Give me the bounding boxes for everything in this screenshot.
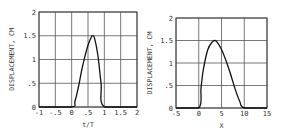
x-tick-label: -.5: [49, 109, 62, 117]
x-tick-label: .5: [84, 109, 92, 117]
y-tick-label: 1.5: [160, 37, 173, 45]
y-tick-label: .5: [165, 82, 173, 90]
y-tick-label: 1.5: [23, 32, 36, 40]
y-tick-label: 0: [32, 104, 36, 112]
y-tick-label: 2: [32, 9, 36, 17]
y-axis-label: DISPLACEMENT, CM: [8, 28, 16, 91]
x-tick-label: 1: [102, 109, 106, 117]
y-tick-label: 1: [32, 56, 36, 64]
y-tick-label: 2: [169, 15, 173, 23]
x-tick-label: 1.5: [114, 109, 127, 117]
chart-canvas: -1-.50.511.520.511.52t/TDISPLACEMENT, CM…: [0, 0, 281, 135]
x-tick-label: 15: [263, 110, 271, 118]
x-axis-label: t/T: [82, 121, 94, 129]
x-tick-label: 0: [197, 110, 201, 118]
y-tick-label: .5: [28, 80, 36, 88]
x-axis-label: X: [220, 122, 224, 130]
y-axis-label: DISPLACEMENT, CM: [146, 32, 154, 95]
x-tick-label: -1: [35, 109, 43, 117]
x-tick-label: 5: [219, 110, 223, 118]
chart-1: -1-.50.511.520.511.52t/TDISPLACEMENT, CM: [8, 9, 139, 130]
y-tick-label: 0: [169, 105, 173, 113]
y-tick-label: 1: [169, 60, 173, 68]
x-tick-label: 10: [240, 110, 248, 118]
chart-2: -50510150.511.52XDISPLACEMENT, CM: [146, 15, 271, 131]
x-tick-label: 0: [70, 109, 74, 117]
x-tick-label: -5: [172, 110, 180, 118]
x-tick-label: 2: [135, 109, 139, 117]
